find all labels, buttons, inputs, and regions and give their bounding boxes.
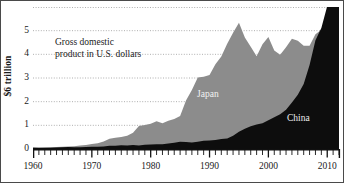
x-tick-label: 1980 bbox=[131, 161, 171, 171]
x-tick-label: 1990 bbox=[190, 161, 230, 171]
annotation-line-1: Gross domestic bbox=[55, 37, 141, 49]
x-tick-label: 1960 bbox=[13, 161, 53, 171]
x-tick-label: 2000 bbox=[248, 161, 288, 171]
y-tick-label: 2 bbox=[17, 96, 29, 106]
x-axis-tick-group bbox=[33, 149, 340, 158]
y-axis-label: $6 trillion bbox=[0, 1, 16, 151]
gdp-area-chart: $6 trillion 012345 196019701980199020002… bbox=[0, 0, 344, 183]
y-tick-label: 4 bbox=[17, 48, 29, 58]
x-axis bbox=[33, 149, 341, 161]
x-tick-label: 2010 bbox=[307, 161, 344, 171]
y-axis-label-text: $6 trillion bbox=[3, 56, 13, 97]
y-tick-label: 5 bbox=[17, 25, 29, 35]
y-tick-label: 0 bbox=[17, 143, 29, 153]
series-area-group bbox=[33, 7, 339, 149]
series-label-japan: Japan bbox=[197, 89, 219, 99]
y-tick-label: 1 bbox=[17, 119, 29, 129]
annotation-line-2: product in U.S. dollars bbox=[55, 49, 141, 61]
plot-area bbox=[33, 7, 339, 149]
x-tick-label: 1970 bbox=[72, 161, 112, 171]
y-tick-label: 3 bbox=[17, 72, 29, 82]
chart-annotation: Gross domestic product in U.S. dollars bbox=[55, 37, 141, 61]
chart-canvas bbox=[33, 7, 339, 149]
series-label-china: China bbox=[287, 113, 310, 123]
